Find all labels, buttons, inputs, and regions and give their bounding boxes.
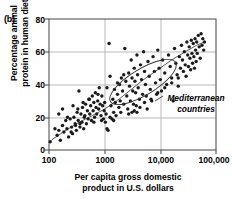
- data-point: [195, 40, 198, 43]
- data-point: [91, 94, 94, 97]
- data-point: [194, 60, 197, 63]
- data-point: [81, 101, 84, 104]
- data-point: [146, 60, 149, 63]
- data-point: [156, 48, 159, 51]
- data-point: [170, 81, 173, 84]
- x-axis-title-line2: product in U.S. dollars: [82, 183, 174, 193]
- data-point: [65, 127, 68, 130]
- data-point: [85, 122, 88, 125]
- data-point: [59, 138, 62, 141]
- x-axis-ticks: [49, 150, 216, 154]
- data-point: [185, 40, 188, 43]
- data-points-group: [48, 32, 206, 143]
- data-point: [96, 99, 99, 102]
- data-point: [130, 76, 133, 79]
- data-point: [81, 106, 84, 109]
- data-point: [104, 112, 107, 115]
- x-axis-title-line1: Per capita gross domestic: [75, 172, 182, 182]
- data-point: [77, 119, 80, 122]
- data-point: [136, 73, 139, 76]
- data-point: [192, 42, 195, 45]
- data-point: [149, 98, 152, 101]
- data-point: [93, 116, 96, 119]
- data-point: [181, 58, 184, 61]
- data-point: [143, 70, 146, 73]
- data-point: [99, 114, 102, 117]
- mediterranean-leader-line: [155, 96, 163, 101]
- data-point: [98, 86, 101, 89]
- data-point: [178, 55, 181, 58]
- data-point: [71, 104, 74, 107]
- y-axis-ticks: [45, 19, 49, 150]
- data-point: [149, 88, 152, 91]
- data-point: [130, 58, 133, 61]
- data-point: [124, 80, 127, 83]
- data-point: [61, 107, 64, 110]
- data-point: [116, 93, 119, 96]
- data-point: [156, 91, 159, 94]
- data-point: [147, 75, 150, 78]
- data-point: [179, 66, 182, 69]
- data-point: [66, 116, 69, 119]
- data-point: [114, 114, 117, 117]
- annotation-line2: countries: [177, 104, 215, 114]
- data-point: [83, 116, 86, 119]
- data-point: [135, 104, 138, 107]
- data-point: [67, 135, 70, 138]
- data-point: [173, 47, 176, 50]
- annotation-line1: Mediterranean: [167, 93, 224, 103]
- data-point: [200, 44, 203, 47]
- data-point: [163, 86, 166, 89]
- data-point: [101, 104, 104, 107]
- data-point: [104, 120, 107, 123]
- data-point: [192, 55, 195, 58]
- data-point: [188, 57, 191, 60]
- data-point: [82, 127, 85, 130]
- data-point: [96, 93, 99, 96]
- x-axis-title: Per capita gross domestic product in U.S…: [33, 172, 223, 194]
- data-point: [112, 111, 115, 114]
- data-point: [151, 55, 154, 58]
- data-point: [57, 112, 60, 115]
- data-point: [203, 40, 206, 43]
- data-point: [55, 134, 58, 137]
- data-point: [120, 76, 123, 79]
- data-point: [182, 70, 185, 73]
- data-point: [198, 57, 201, 60]
- data-point: [122, 73, 125, 76]
- data-point: [183, 50, 186, 53]
- data-point: [188, 45, 191, 48]
- data-point: [133, 80, 136, 83]
- data-point: [126, 107, 129, 110]
- data-point: [95, 112, 98, 115]
- data-point: [140, 78, 143, 81]
- data-point: [128, 84, 131, 87]
- data-point: [157, 66, 160, 69]
- data-point: [108, 75, 111, 78]
- data-point: [197, 34, 200, 37]
- data-point: [191, 62, 194, 65]
- data-point: [107, 42, 110, 45]
- data-point: [167, 53, 170, 56]
- data-point: [131, 89, 134, 92]
- data-point: [154, 81, 157, 84]
- data-point: [177, 76, 180, 79]
- data-point: [53, 127, 56, 130]
- data-point: [153, 70, 156, 73]
- data-point: [88, 98, 91, 101]
- data-point: [139, 63, 142, 66]
- data-point: [92, 101, 95, 104]
- data-point: [123, 47, 126, 50]
- data-point: [201, 37, 204, 40]
- data-point: [193, 37, 196, 40]
- data-point: [189, 68, 192, 71]
- data-point: [193, 66, 196, 69]
- data-point: [75, 129, 78, 132]
- data-point: [118, 99, 121, 102]
- data-point: [79, 112, 82, 115]
- data-point: [136, 86, 139, 89]
- data-point: [135, 53, 138, 56]
- data-point: [69, 130, 72, 133]
- data-point: [92, 120, 95, 123]
- data-point: [125, 94, 128, 97]
